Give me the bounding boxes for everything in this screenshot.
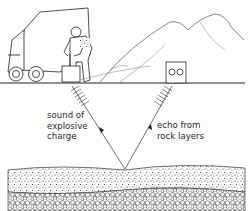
echo-label: echo from rock layers [157,120,204,141]
diagram-canvas [0,0,251,211]
downgoing-wave-marks [71,86,89,106]
upgoing-wave-marks [154,86,172,106]
sound-label: sound of explosive charge [47,110,88,142]
geophone-recorder-box [166,62,186,83]
detonator-cable [80,66,150,80]
seismic-survey-diagram: sound of explosive charge echo from rock… [0,0,251,211]
